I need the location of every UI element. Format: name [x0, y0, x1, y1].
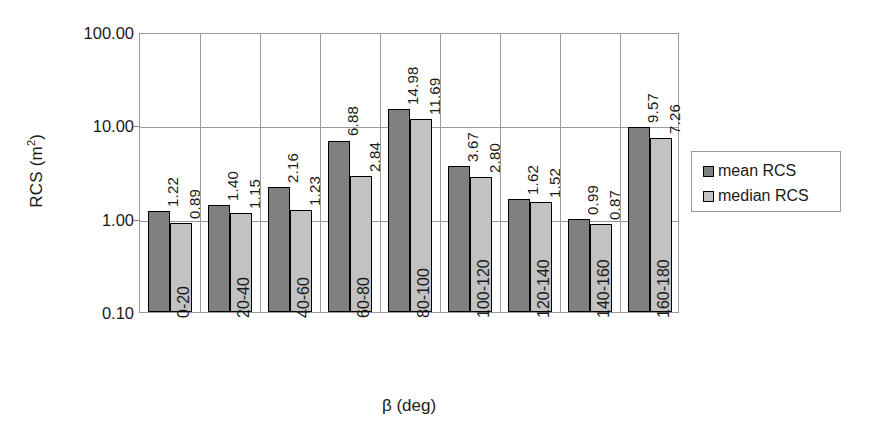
bar-value-label-mean-rcs: 1.62: [525, 165, 540, 195]
bar-group: 1.401.15: [200, 34, 260, 312]
x-axis-tick-label: 60-80: [356, 277, 372, 318]
x-axis-tick-label: 80-100: [416, 268, 432, 318]
x-axis-tick-label: 100-120: [476, 259, 492, 318]
bar-value-label-mean-rcs: 0.99: [585, 185, 600, 215]
y-axis-title-superscript: 2: [25, 140, 37, 146]
bar-value-label-mean-rcs: 3.67: [465, 132, 480, 162]
legend-swatch-icon-median-rcs: [703, 191, 714, 202]
legend-label-mean-rcs: mean RCS: [718, 163, 796, 179]
y-axis-tick-label: 100.00: [62, 25, 134, 41]
y-axis-tick-mark: [134, 126, 139, 127]
bar-value-label-median-rcs: 7.26: [667, 104, 682, 134]
bar-mean-rcs[interactable]: [268, 187, 290, 312]
y-axis-tick-label: 1.00: [62, 212, 134, 228]
bar-mean-rcs[interactable]: [148, 211, 170, 312]
bar-group: 6.882.84: [320, 34, 380, 312]
bar-value-label-mean-rcs: 1.22: [165, 177, 180, 207]
legend-item-mean-rcs[interactable]: mean RCS: [703, 163, 796, 179]
x-axis-tick-label: 140-160: [596, 259, 612, 318]
chart-figure: RCS (m2) 100.0010.001.000.10 1.220.891.4…: [0, 0, 877, 434]
bar-mean-rcs[interactable]: [628, 127, 650, 312]
x-axis-title: β (deg): [139, 396, 679, 416]
bar-value-label-mean-rcs: 1.40: [225, 171, 240, 201]
y-axis-tick-label: 0.10: [62, 305, 134, 321]
x-axis-tick-label: 160-180: [656, 259, 672, 318]
y-axis-title: RCS (m2): [25, 111, 47, 231]
bar-value-label-mean-rcs: 6.88: [345, 106, 360, 136]
x-axis-tick-label: 40-60: [296, 277, 312, 318]
y-axis-title-text: RCS (m: [27, 146, 46, 208]
x-axis-tick-label: 0-20: [176, 286, 192, 318]
y-axis-title-close: ): [27, 134, 46, 140]
bar-group: 1.220.89: [140, 34, 200, 312]
y-axis-tick-mark: [134, 220, 139, 221]
bar-mean-rcs[interactable]: [328, 141, 350, 313]
y-axis-ticks: 100.0010.001.000.10: [60, 0, 134, 434]
chart-legend: mean RCS median RCS: [691, 151, 841, 212]
x-axis-tick-label: 20-40: [236, 277, 252, 318]
x-axis-tick-label: 120-140: [536, 259, 552, 318]
bar-mean-rcs[interactable]: [388, 109, 410, 312]
legend-item-median-rcs[interactable]: median RCS: [703, 188, 809, 204]
legend-label-median-rcs: median RCS: [718, 188, 809, 204]
bar-mean-rcs[interactable]: [208, 205, 230, 312]
bar-value-label-mean-rcs: 9.57: [645, 93, 660, 123]
bar-value-label-mean-rcs: 14.98: [405, 66, 420, 105]
y-axis-tick-label: 10.00: [62, 118, 134, 134]
legend-swatch-icon-mean-rcs: [703, 166, 714, 177]
bar-mean-rcs[interactable]: [448, 166, 470, 312]
bar-mean-rcs[interactable]: [568, 219, 590, 312]
bar-mean-rcs[interactable]: [508, 199, 530, 312]
bar-group: 2.161.23: [260, 34, 320, 312]
bar-value-label-mean-rcs: 2.16: [285, 153, 300, 183]
